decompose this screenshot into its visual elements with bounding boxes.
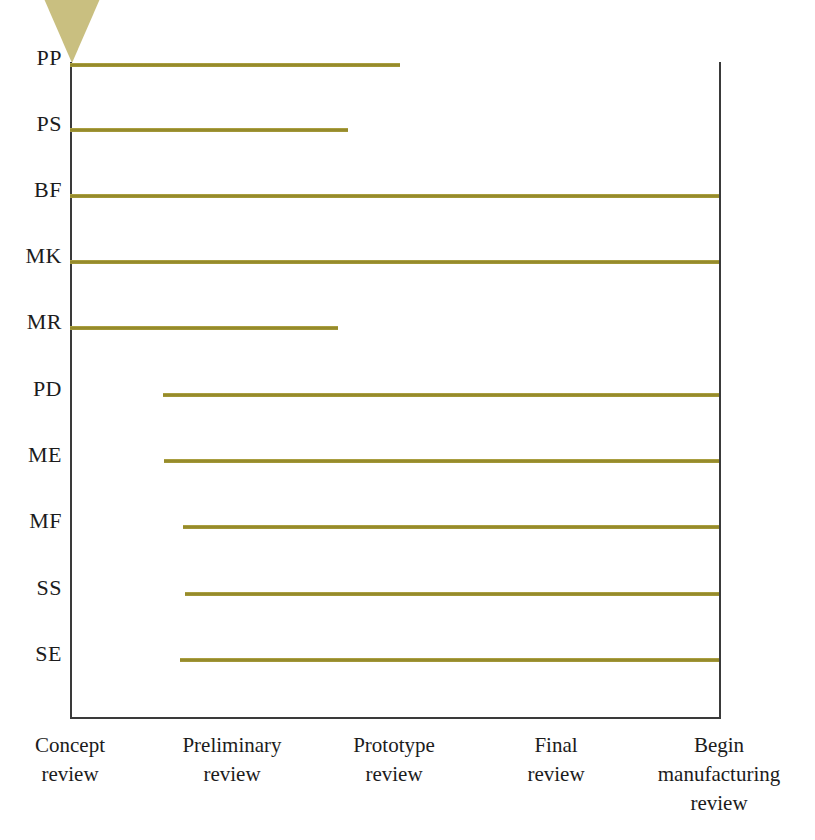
gantt-chart: PPPSBFMKMRPDMEMFSSSE ConceptreviewPrelim…	[0, 0, 815, 840]
bar-ps	[70, 128, 348, 132]
bar-pp	[70, 63, 400, 67]
bar-bf	[70, 194, 719, 198]
x-axis-label-line2: manufacturing	[619, 760, 815, 789]
x-axis-label-line2: review	[0, 760, 155, 789]
bar-mk	[70, 260, 719, 264]
x-axis-label-line1: Begin	[694, 733, 744, 757]
bar-me	[164, 459, 719, 463]
y-axis-label-mr: MR	[0, 311, 62, 333]
x-axis-label-1: Preliminaryreview	[142, 731, 322, 789]
right-axis-line	[719, 62, 721, 719]
bar-pd	[163, 393, 719, 397]
y-axis-label-me: ME	[0, 444, 62, 466]
y-axis-label-se: SE	[0, 643, 62, 665]
x-axis-line	[70, 717, 721, 719]
y-axis-label-ps: PS	[0, 113, 62, 135]
x-axis-label-line2: review	[481, 760, 631, 789]
bar-ss	[185, 592, 719, 596]
x-axis-label-2: Prototypereview	[309, 731, 479, 789]
y-axis-label-ss: SS	[0, 577, 62, 599]
x-axis-label-line2: review	[309, 760, 479, 789]
x-axis-label-line1: Prototype	[353, 733, 435, 757]
y-axis-line	[70, 62, 72, 719]
x-axis-label-4: Beginmanufacturingreview	[619, 731, 815, 818]
bar-mr	[70, 326, 338, 330]
bar-mf	[183, 525, 719, 529]
x-axis-label-3: Finalreview	[481, 731, 631, 789]
y-axis-label-mf: MF	[0, 510, 62, 532]
bar-se	[180, 658, 719, 662]
y-axis-label-mk: MK	[0, 245, 62, 267]
x-axis-label-line1: Concept	[35, 733, 105, 757]
x-axis-label-line3: review	[619, 789, 815, 818]
y-axis-label-pp: PP	[0, 47, 62, 69]
y-axis-label-pd: PD	[0, 378, 62, 400]
x-axis-label-line1: Final	[534, 733, 577, 757]
x-axis-label-line1: Preliminary	[182, 733, 281, 757]
x-axis-label-0: Conceptreview	[0, 731, 155, 789]
y-axis-label-bf: BF	[0, 179, 62, 201]
x-axis-label-line2: review	[142, 760, 322, 789]
